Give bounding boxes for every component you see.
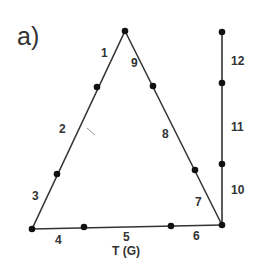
segment-label-12: 12: [231, 54, 245, 68]
segment-label-4: 4: [55, 233, 62, 247]
axis-label: T (G): [112, 244, 140, 258]
right-edge: [125, 31, 222, 225]
segment-label-8: 8: [162, 127, 169, 141]
node-left-upper: [94, 84, 101, 91]
node-vert-upper: [219, 80, 226, 87]
segment-label-1: 1: [101, 46, 108, 60]
node-right-lower: [192, 167, 199, 174]
node-bottom-right: [219, 222, 226, 229]
segment-label-6: 6: [193, 229, 200, 243]
segment-label-7: 7: [195, 195, 202, 209]
segment-label-10: 10: [231, 183, 245, 197]
node-apex: [122, 28, 129, 35]
faint-mark: [87, 128, 95, 135]
node-left-lower: [54, 171, 61, 178]
node-right-upper: [150, 83, 157, 90]
left-edge: [32, 31, 125, 229]
node-bottom-b: [168, 223, 175, 230]
segment-label-2: 2: [59, 122, 66, 136]
triangle-diagram: 1 2 3 4 5 6 7 8 9 10 11 12 T (G): [0, 0, 256, 266]
segment-label-5: 5: [123, 230, 130, 244]
node-vert-lower: [219, 161, 226, 168]
segment-label-3: 3: [32, 189, 39, 203]
segment-labels: 1 2 3 4 5 6 7 8 9 10 11 12: [32, 46, 245, 247]
node-bottom-a: [81, 224, 88, 231]
node-vert-top: [219, 29, 226, 36]
node-bottom-left: [29, 226, 36, 233]
segment-label-11: 11: [231, 120, 244, 134]
segment-label-9: 9: [131, 56, 138, 70]
